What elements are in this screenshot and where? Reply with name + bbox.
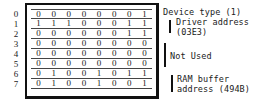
row-number: 3 [12,39,20,49]
label-not-used: Not Used [170,51,212,61]
bit-cell: 0 [107,29,122,38]
bit-cell: 0 [46,59,61,68]
table-row: 00000000 [31,39,152,49]
bit-cell: 0 [31,69,46,78]
row-number: 7 [12,79,20,89]
bit-cell: 0 [92,10,107,18]
label-ram-buffer-value: address (494B) [177,84,250,94]
bit-cell: 1 [137,29,152,38]
bit-cell: 1 [46,19,61,28]
bit-cell: 1 [122,19,137,28]
bit-cell: 0 [31,39,46,48]
bracket-bar-not-used [164,43,166,67]
bit-cell: 1 [31,19,46,28]
bit-table: 0000000111100011000000110000000000000000… [25,3,159,99]
bit-cell: 0 [31,79,46,88]
bracket-bar-driver-address [169,20,171,33]
bit-cell: 0 [76,10,91,18]
bit-cell: 0 [76,49,91,58]
bit-cell: 0 [122,49,137,58]
bit-cell: 0 [107,10,122,18]
bit-cell: 0 [122,39,137,48]
bit-cell: 0 [107,39,122,48]
bit-cell: 0 [122,59,137,68]
bit-cell: 0 [61,79,76,88]
bit-cell: 0 [61,39,76,48]
table-row: 11100011 [31,19,152,29]
table-row: 00000000 [31,49,152,59]
bit-cell: 0 [31,10,46,18]
bit-cell: 0 [92,49,107,58]
bit-cell: 0 [46,39,61,48]
bit-cell: 0 [92,19,107,28]
bit-cell: 1 [122,69,137,78]
bit-cell: 0 [76,59,91,68]
row-number: 4 [12,49,20,59]
bit-cell: 0 [92,29,107,38]
bit-cell: 0 [61,69,76,78]
bit-cell: 1 [92,69,107,78]
bit-cell: 1 [137,69,152,78]
table-row: 00000011 [31,29,152,39]
bit-cell: 0 [107,19,122,28]
bit-cell: 0 [76,39,91,48]
bit-cell: 0 [76,19,91,28]
bit-cell: 1 [137,79,152,88]
bit-cell: 0 [61,29,76,38]
row-number: 1 [12,19,20,29]
bit-cell: 0 [76,69,91,78]
bit-cell: 0 [31,59,46,68]
row-number: 0 [12,9,20,19]
table-row: 00000000 [31,59,152,69]
bit-cell: 0 [46,49,61,58]
bit-cell: 0 [137,59,152,68]
row-number: 2 [12,29,20,39]
label-driver-address-value: (03E3) [176,27,207,37]
label-ram-buffer: RAM buffer [177,74,229,84]
bit-cell: 0 [92,59,107,68]
label-device-type: Device type (1) [163,7,241,17]
bit-cell: 0 [107,79,122,88]
bit-cell: 1 [137,10,152,18]
bit-cell: 1 [46,69,61,78]
bit-cell: 0 [107,49,122,58]
row-number: 5 [12,59,20,69]
bit-cell: 1 [92,79,107,88]
bit-cell: 0 [137,49,152,58]
bit-cell: 0 [61,10,76,18]
bit-cell: 1 [122,29,137,38]
bit-cell: 0 [76,29,91,38]
bit-cell: 1 [46,79,61,88]
bit-cell: 0 [137,39,152,48]
bit-cell: 0 [107,59,122,68]
bit-cell: 0 [46,29,61,38]
bit-cell: 0 [122,79,137,88]
bit-table-rows: 0000000111100011000000110000000000000000… [31,9,152,89]
bit-cell: 1 [137,19,152,28]
bracket-bar-ram-buffer [171,75,173,92]
table-row: 01001001 [31,79,152,89]
table-row: 01001011 [31,69,152,79]
bit-cell: 0 [61,59,76,68]
bit-cell: 0 [76,79,91,88]
bit-cell: 0 [46,10,61,18]
bit-cell: 0 [122,10,137,18]
bit-cell: 1 [61,19,76,28]
bit-cell: 0 [31,49,46,58]
bit-cell: 0 [107,69,122,78]
label-driver-address: Driver address [176,17,249,27]
row-number: 6 [12,69,20,79]
bit-cell: 0 [31,29,46,38]
table-row: 00000001 [31,9,152,19]
bit-cell: 0 [61,49,76,58]
bit-cell: 0 [92,39,107,48]
